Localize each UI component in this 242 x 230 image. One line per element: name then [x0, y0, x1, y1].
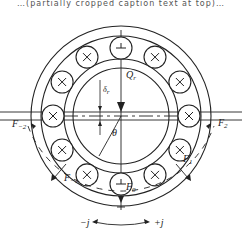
ball: [144, 164, 166, 186]
bearing-diagram: Qr δr θ F0 F1 F−1 F2 F−2 −j +j: [0, 0, 242, 230]
load-arrow: [117, 102, 125, 112]
ball: [51, 139, 73, 161]
ball: [110, 37, 132, 59]
force-label-f2: F2: [217, 117, 228, 130]
angle-line: [99, 116, 121, 156]
rotation-arc: [94, 222, 148, 225]
clearance-label: δr: [103, 85, 110, 96]
clearance-dimension: [98, 80, 102, 135]
ball: [144, 46, 166, 68]
ball: [178, 105, 200, 127]
rotation-arrow-left: [92, 219, 98, 224]
ball: [51, 71, 73, 93]
rotation-arrow-right: [144, 219, 150, 224]
ball: [42, 105, 64, 127]
minus-j-label: −j: [80, 217, 90, 228]
load-label: Qr: [126, 69, 136, 82]
ball: [76, 46, 98, 68]
ball: [76, 164, 98, 186]
angle-label: θ: [112, 127, 117, 138]
plus-j-label: +j: [154, 217, 164, 228]
ball: [169, 71, 191, 93]
